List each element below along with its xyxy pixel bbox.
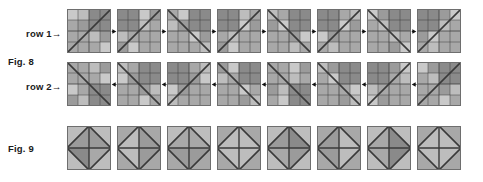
fig8-tile [367, 62, 411, 106]
fig9-tile [317, 126, 361, 170]
fig8-caption: Fig. 8 [8, 56, 34, 67]
fig8-tile [367, 9, 411, 53]
fig8-tile [267, 9, 311, 53]
fig8-tile [67, 62, 111, 106]
fig8-tile [317, 9, 361, 53]
fig8-tile [167, 62, 211, 106]
fig9-caption: Fig. 9 [8, 143, 34, 154]
fig8-tile [67, 9, 111, 53]
fig8-tile [417, 9, 461, 53]
fig9-tile [267, 126, 311, 170]
fig9-tile [417, 126, 461, 170]
fig8-tile [217, 62, 261, 106]
fig9-tile [367, 126, 411, 170]
fig8-tile [117, 62, 161, 106]
fig8-row-1 [67, 9, 461, 53]
row2-label: row 2→ [26, 81, 62, 92]
fig8-tile [167, 9, 211, 53]
fig8-tile [267, 62, 311, 106]
row1-label: row 1→ [26, 28, 62, 39]
fig8-tile [417, 62, 461, 106]
fig9-tile [117, 126, 161, 170]
fig8-tile [117, 9, 161, 53]
fig8-tile [317, 62, 361, 106]
fig9-row [67, 126, 461, 170]
fig9-tile [67, 126, 111, 170]
fig9-tile [217, 126, 261, 170]
fig8-row-2 [67, 62, 461, 106]
figure-canvas: row 1→ Fig. 8 row 2→ Fig. 9 [0, 0, 483, 182]
fig8-tile [217, 9, 261, 53]
fig9-tile [167, 126, 211, 170]
